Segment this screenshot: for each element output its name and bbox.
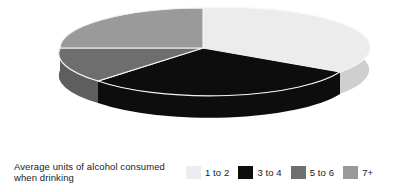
legend-item-7-plus[interactable]: 7+ — [343, 166, 373, 179]
legend-title: Average units of alcohol consumed when d… — [14, 161, 186, 184]
legend-item-3-to-4[interactable]: 3 to 4 — [238, 166, 281, 179]
legend-title-line-1: Average units of alcohol consumed — [14, 161, 186, 173]
legend-label-5-to-6: 5 to 6 — [310, 167, 334, 178]
legend-label-3-to-4: 3 to 4 — [257, 167, 281, 178]
legend-label-7-plus: 7+ — [362, 167, 373, 178]
legend-swatch-3-to-4 — [238, 166, 253, 179]
pie-slice-7-plus — [60, 8, 203, 48]
legend-swatch-5-to-6 — [291, 166, 306, 179]
legend-item-5-to-6[interactable]: 5 to 6 — [291, 166, 334, 179]
legend-swatch-7-plus — [343, 166, 358, 179]
legend-title-line-2: when drinking — [14, 172, 186, 184]
pie-chart-figure: Average units of alcohol consumed when d… — [0, 0, 412, 192]
chart-legend: Average units of alcohol consumed when d… — [0, 152, 412, 192]
legend-label-1-to-2: 1 to 2 — [205, 167, 229, 178]
legend-item-1-to-2[interactable]: 1 to 2 — [186, 166, 229, 179]
legend-swatch-1-to-2 — [186, 166, 201, 179]
pie-chart-graphic — [0, 0, 412, 160]
legend-entries: 1 to 2 3 to 4 5 to 6 7+ — [186, 166, 412, 179]
